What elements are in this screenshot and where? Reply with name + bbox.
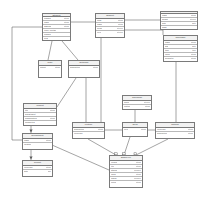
class-box-department[interactable]: Departmentnamestringlocation <box>22 133 53 150</box>
class-box-term[interactable]: Termlevelstring <box>122 122 148 137</box>
class-attributes-outcome: descriptionstring <box>69 66 99 77</box>
attribute-name: name <box>44 21 49 24</box>
attribute-name: name <box>162 14 167 17</box>
class-box-timetable[interactable]: Timetablenamestringdaydatetimetimeroomst… <box>163 35 198 62</box>
class-box-timespan[interactable]: Timespanhoursintegerpatternstring <box>122 95 152 110</box>
attribute-row: levelinteger <box>96 31 124 34</box>
uml-diagram-canvas: Studentnumberstringnamestringaddressstri… <box>0 0 205 207</box>
attribute-type: integer <box>144 101 150 104</box>
attribute-name: enrol. contact <box>44 29 56 32</box>
edge-tutorial-employee <box>136 139 168 155</box>
class-box-project[interactable]: Projecttitlestringdepartmentclassificati… <box>23 103 57 126</box>
class-attributes-student: numberstringnamestringaddressstringenrol… <box>43 17 70 40</box>
class-box-rate[interactable]: Rateprojectstring <box>38 60 62 78</box>
attribute-name: description <box>157 132 167 135</box>
attribute-type: string <box>64 25 69 28</box>
attribute-row: completed <box>24 121 56 124</box>
attribute-type: string <box>64 17 69 20</box>
attribute-name: project <box>40 66 46 69</box>
class-box-tutorial[interactable]: Tutorialreferencestringdescriptionstring <box>155 122 195 139</box>
edge-outcome-project <box>57 78 76 107</box>
class-box-lecture[interactable]: Lecturedescriptionstringreference <box>72 122 105 139</box>
class-box-subject[interactable]: Subjectcodestringnamestringcreditinteger… <box>95 13 125 38</box>
attribute-type: date <box>192 22 196 25</box>
attribute-type: string <box>93 66 98 69</box>
attribute-name: hours <box>124 101 129 104</box>
attribute-name: title <box>25 109 28 112</box>
attribute-name: credit <box>97 27 102 30</box>
class-attributes-tutorial: referencestringdescriptionstring <box>156 128 194 138</box>
attribute-type: string <box>55 66 60 69</box>
attribute-type: date <box>192 45 196 48</box>
attribute-type: string <box>188 132 193 135</box>
class-attributes-report: referencestringdateday <box>23 166 52 176</box>
attribute-name: date <box>162 22 166 25</box>
attribute-name: code <box>97 19 102 22</box>
edge-student-rate <box>48 41 52 60</box>
attribute-name: department <box>25 113 36 116</box>
attribute-type: string <box>141 128 146 131</box>
attribute-name: semester <box>165 57 174 60</box>
attribute-name: room <box>111 173 116 176</box>
attribute-name: year <box>44 37 48 40</box>
attribute-type: number <box>134 177 141 180</box>
class-attributes-lecture: descriptionstringreference <box>73 128 104 138</box>
attribute-row: patternstring <box>123 105 151 108</box>
attribute-name: address <box>44 25 51 28</box>
edge-department-employee <box>52 145 109 170</box>
attribute-name: description <box>74 128 84 131</box>
attribute-name: pattern <box>124 105 130 108</box>
class-box-student[interactable]: Studentnumberstringnamestringaddressstri… <box>42 13 71 41</box>
class-box-employee[interactable]: Employeerefnumstringtitlestringstaffnonu… <box>109 155 143 188</box>
attribute-name: name <box>97 23 102 26</box>
attribute-name: name <box>24 139 29 142</box>
attribute-row: location <box>23 143 52 146</box>
attribute-name: completed <box>25 121 35 124</box>
attribute-row: projectstring <box>39 66 61 69</box>
class-box-exam[interactable]: Examnamestringweightintegerdatedatemark <box>160 11 198 30</box>
attribute-type: number <box>134 169 141 172</box>
attribute-name: reference <box>74 132 83 135</box>
attribute-type: string <box>136 181 141 184</box>
attribute-name: time <box>165 49 169 52</box>
class-box-report[interactable]: Reportreferencestringdateday <box>22 160 53 177</box>
attribute-name: room <box>165 53 170 56</box>
attribute-name: weight <box>162 18 168 21</box>
attribute-row: descriptionstring <box>69 66 99 69</box>
attribute-type: string <box>136 165 141 168</box>
attribute-type: string <box>145 105 150 108</box>
class-attributes-rate: projectstring <box>39 66 61 77</box>
class-attributes-subject: codestringnamestringcreditintegerlevelin… <box>96 19 124 37</box>
attribute-type: string <box>50 117 55 120</box>
attribute-row: dateday <box>23 170 52 173</box>
attribute-name: notes <box>111 181 116 184</box>
attribute-name: day <box>165 45 168 48</box>
attribute-type: string <box>188 128 193 131</box>
attribute-row: mark <box>161 26 197 29</box>
attribute-name: location <box>24 143 31 146</box>
attribute-type: integer <box>117 31 123 34</box>
class-attributes-term: levelstring <box>123 128 147 136</box>
class-attributes-project: titlestringdepartmentclassificationstrin… <box>24 109 56 125</box>
class-attributes-timetable: namestringdaydatetimetimeroomstringsemes… <box>164 41 197 61</box>
attribute-row: notesstring <box>110 181 142 184</box>
class-attributes-employee: refnumstringtitlestringstaffnonumberroom… <box>110 161 142 187</box>
attribute-name: number <box>44 33 51 36</box>
class-box-outcome[interactable]: Outcomedescriptionstring <box>68 60 100 78</box>
attribute-type: string <box>191 41 196 44</box>
attribute-type: string <box>136 173 141 176</box>
attribute-type: string <box>191 57 196 60</box>
attribute-name: reference <box>24 166 33 169</box>
attribute-row: descriptionstring <box>156 132 194 135</box>
attribute-name: refnum <box>111 161 117 164</box>
class-attributes-timespan: hoursintegerpatternstring <box>123 101 151 109</box>
attribute-name: classification <box>25 117 37 120</box>
attribute-name: number <box>44 17 51 20</box>
attribute-type: string <box>64 21 69 24</box>
attribute-name: name <box>165 41 170 44</box>
attribute-row: semesterstring <box>164 57 197 60</box>
attribute-name: level <box>124 128 128 131</box>
attribute-name: level <box>97 31 101 34</box>
attribute-type: string <box>98 128 103 131</box>
attribute-type: integer <box>117 27 123 30</box>
